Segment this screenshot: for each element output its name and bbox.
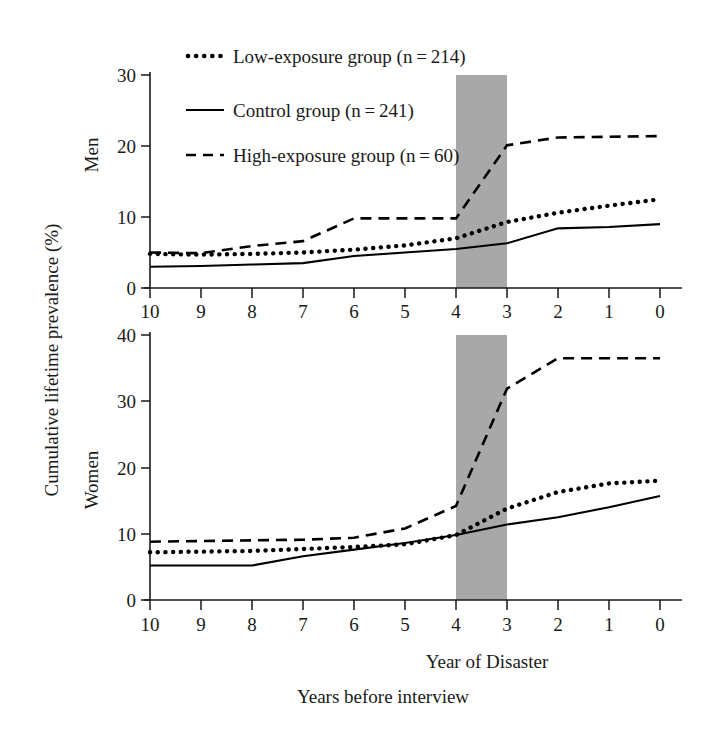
men-xtick-8: 8 (247, 301, 257, 322)
legend-label-low-exposure: Low-exposure group (n = 214) (233, 46, 466, 68)
women-xtick-5: 5 (400, 614, 410, 635)
men-ytick-20: 20 (117, 136, 136, 157)
disaster-band-women (456, 335, 507, 600)
legend-item-high-exposure[interactable]: High-exposure group (n = 60) (186, 145, 459, 167)
chart-figure: Cumulative lifetime prevalence (%) Men W… (0, 0, 704, 735)
men-xtick-7: 7 (298, 301, 308, 322)
men-xtick-5: 5 (400, 301, 410, 322)
women-xtick-3: 3 (502, 614, 512, 635)
legend-item-control[interactable]: Control group (n = 241) (186, 100, 414, 122)
women-ytick-30: 30 (117, 391, 136, 412)
women-xtick-0: 0 (655, 614, 665, 635)
legend-label-control: Control group (n = 241) (233, 100, 414, 122)
women-series-control (150, 496, 660, 566)
panel-women: 0 10 20 30 40 10 9 8 7 6 5 (117, 325, 682, 635)
men-xtick-4: 4 (451, 301, 461, 322)
men-ytick-0: 0 (127, 278, 137, 299)
men-y-ticks (141, 75, 150, 288)
women-x-ticks (150, 600, 660, 610)
chart-legend: Low-exposure group (n = 214) Control gro… (186, 46, 466, 167)
legend-label-high-exposure: High-exposure group (n = 60) (233, 145, 459, 167)
panel-label-women: Women (81, 450, 102, 509)
women-series-high-exposure (150, 358, 660, 542)
panel-label-men: Men (81, 137, 102, 172)
men-x-ticks (150, 288, 660, 298)
men-xtick-3: 3 (502, 301, 512, 322)
y-axis-title: Cumulative lifetime prevalence (%) (41, 224, 63, 497)
women-xtick-7: 7 (298, 614, 308, 635)
x-axis-subtitle: Years before interview (297, 686, 469, 707)
women-ytick-20: 20 (117, 458, 136, 479)
men-xtick-1: 1 (604, 301, 614, 322)
men-xtick-9: 9 (196, 301, 206, 322)
x-axis-title: Year of Disaster (426, 651, 549, 672)
men-ytick-10: 10 (117, 207, 136, 228)
men-ytick-30: 30 (117, 65, 136, 86)
legend-item-low-exposure[interactable]: Low-exposure group (n = 214) (188, 46, 466, 68)
women-xtick-4: 4 (451, 614, 461, 635)
men-xtick-0: 0 (655, 301, 665, 322)
women-xtick-8: 8 (247, 614, 257, 635)
women-y-ticks (141, 335, 150, 600)
women-xtick-6: 6 (349, 614, 359, 635)
women-ytick-10: 10 (117, 524, 136, 545)
men-xtick-10: 10 (141, 301, 160, 322)
women-xtick-2: 2 (553, 614, 563, 635)
chart-svg: Cumulative lifetime prevalence (%) Men W… (0, 0, 704, 735)
women-xtick-1: 1 (604, 614, 614, 635)
women-xtick-9: 9 (196, 614, 206, 635)
women-ytick-40: 40 (117, 325, 136, 346)
men-xtick-2: 2 (553, 301, 563, 322)
disaster-band-men (456, 75, 507, 288)
women-xtick-10: 10 (141, 614, 160, 635)
women-ytick-0: 0 (127, 590, 137, 611)
men-xtick-6: 6 (349, 301, 359, 322)
